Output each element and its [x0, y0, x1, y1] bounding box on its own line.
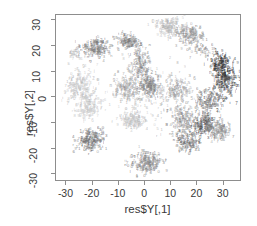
data-point: 7 — [159, 97, 161, 101]
data-point: 1 — [156, 67, 158, 71]
data-point: l — [162, 72, 163, 76]
data-point: 9 — [228, 123, 230, 127]
data-point: 2 — [90, 60, 92, 64]
data-point: 2 — [211, 117, 213, 121]
data-point: 1 — [141, 123, 143, 127]
data-point: t — [136, 97, 137, 101]
data-point: 1 — [223, 87, 225, 91]
data-point: f — [179, 114, 180, 118]
data-point: t — [135, 92, 136, 96]
data-point: 4 — [69, 51, 71, 55]
data-point: 9 — [159, 158, 161, 162]
data-point: 3 — [188, 142, 190, 146]
data-point: n — [222, 64, 225, 69]
data-point: 9 — [181, 92, 183, 96]
data-point: 3 — [175, 44, 177, 48]
data-point: i — [85, 45, 86, 49]
data-point: 9 — [117, 123, 119, 127]
y-tick-mark — [51, 122, 55, 123]
data-point: 5 — [162, 31, 164, 35]
data-point: l — [180, 37, 181, 41]
y-tick-label-text: -30 — [27, 173, 39, 188]
x-tick-mark — [65, 181, 66, 185]
data-point: i — [121, 39, 122, 43]
data-point: i — [235, 90, 236, 95]
data-point: 5 — [82, 78, 84, 82]
data-point: 0 — [137, 105, 139, 109]
data-point: 7 — [148, 81, 150, 85]
data-point: 9 — [166, 123, 168, 127]
y-tick-label-text: 0 — [36, 96, 48, 102]
data-point: r — [175, 16, 176, 20]
data-point: 7 — [128, 55, 130, 59]
data-point: 2 — [213, 117, 215, 121]
x-tick-mark — [223, 181, 224, 185]
data-point: 1 — [224, 73, 227, 78]
data-point: 9 — [128, 100, 130, 104]
data-point: 0 — [96, 150, 98, 154]
data-point: 5 — [238, 75, 240, 79]
data-point: 1 — [206, 38, 208, 42]
data-point: 6 — [172, 17, 174, 21]
data-point: r — [200, 53, 201, 57]
data-point: f — [172, 111, 173, 115]
data-point: t — [169, 95, 170, 99]
data-point: 6 — [188, 129, 190, 133]
data-point: 0 — [227, 133, 230, 138]
data-point: 2 — [235, 84, 237, 88]
data-point: n — [85, 131, 87, 135]
data-point: l — [98, 82, 99, 86]
data-point: 3 — [232, 77, 235, 82]
data-point: 1 — [192, 38, 194, 42]
data-point: 3 — [183, 14, 185, 17]
data-point: 3 — [97, 109, 99, 113]
data-point: f — [117, 42, 118, 47]
data-point: l — [87, 98, 88, 102]
data-point: 7 — [83, 101, 85, 105]
data-point: 1 — [138, 145, 140, 149]
data-point: 6 — [134, 87, 136, 91]
data-point: 5 — [197, 94, 199, 98]
x-tick-label-text: -20 — [84, 187, 99, 199]
y-tick-label-text: 10 — [30, 71, 42, 83]
data-point: 9 — [157, 33, 159, 37]
data-point: 9 — [166, 169, 168, 173]
data-point: 0 — [101, 129, 103, 133]
data-point: r — [158, 107, 159, 111]
data-point: f — [145, 89, 146, 93]
data-point: 6 — [169, 36, 171, 40]
data-point: 6 — [196, 87, 198, 91]
data-point: f — [163, 109, 164, 113]
data-point: 2 — [90, 93, 92, 97]
data-point: 7 — [176, 27, 178, 31]
data-point: r — [117, 88, 118, 92]
data-point: 3 — [81, 84, 83, 88]
y-tick-mark — [51, 71, 55, 72]
data-point: 4 — [185, 121, 187, 125]
data-point: i — [194, 98, 195, 102]
data-point: 0 — [114, 95, 116, 99]
data-point: t — [137, 156, 138, 160]
data-point: l — [86, 100, 87, 104]
data-point: 9 — [131, 63, 133, 67]
data-point: 1 — [118, 106, 120, 110]
data-point: 3 — [188, 74, 190, 78]
data-point: 0 — [140, 160, 142, 164]
data-point: 7 — [189, 56, 191, 60]
data-point: 9 — [79, 105, 81, 109]
data-point: 1 — [184, 81, 186, 85]
data-point: 4 — [103, 59, 105, 63]
data-point: 6 — [146, 106, 148, 110]
data-point: 2 — [151, 71, 154, 76]
data-point: 4 — [232, 60, 234, 64]
data-point: 5 — [107, 50, 109, 54]
data-point: 4 — [144, 53, 146, 57]
data-point: i — [62, 96, 63, 100]
data-point: 6 — [117, 48, 119, 52]
data-point: 9 — [90, 110, 92, 114]
data-point: r — [105, 108, 106, 112]
data-point: 7 — [232, 135, 234, 139]
x-tick-mark — [196, 181, 197, 185]
data-point: n — [141, 66, 143, 70]
data-point: 2 — [184, 131, 186, 135]
